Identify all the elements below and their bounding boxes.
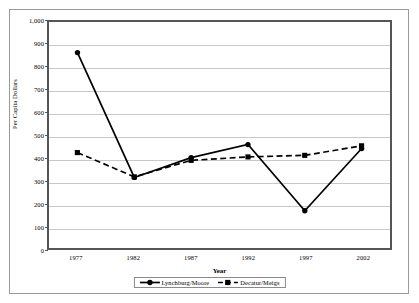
data-point-marker bbox=[359, 143, 364, 148]
data-point-marker bbox=[75, 150, 80, 155]
series-line-1 bbox=[77, 53, 361, 211]
y-axis-tick-label: 0 bbox=[10, 247, 44, 254]
data-point-marker bbox=[302, 153, 307, 158]
legend-label: Lynchburg/Moore bbox=[161, 279, 209, 286]
y-axis-tick-label: 1,000 bbox=[10, 17, 44, 24]
chart-figure: 01002003004005006007008009001,000 Per Ca… bbox=[0, 0, 419, 303]
legend-swatch-square bbox=[218, 279, 238, 286]
chart-legend: Lynchburg/MooreDecatur/Meigs bbox=[133, 277, 285, 288]
x-axis-tick-label: 1997 bbox=[286, 254, 326, 262]
data-point-marker bbox=[245, 154, 250, 159]
x-axis-tick-label: 1987 bbox=[171, 254, 211, 262]
series-canvas bbox=[49, 22, 390, 248]
x-axis-tick-label: 1992 bbox=[228, 254, 268, 262]
legend-entry-2: Decatur/Meigs bbox=[218, 279, 279, 286]
data-point-marker bbox=[245, 142, 250, 147]
legend-entry-1: Lynchburg/Moore bbox=[139, 279, 209, 286]
x-axis-tick-label: 2002 bbox=[343, 254, 383, 262]
y-axis-tick-label: 400 bbox=[10, 155, 44, 162]
data-point-marker bbox=[189, 158, 194, 163]
legend-label: Decatur/Meigs bbox=[240, 279, 279, 286]
y-axis-tick-label: 100 bbox=[10, 224, 44, 231]
y-axis-title: Per Capita Dollars bbox=[11, 59, 19, 149]
y-axis-tick-mark bbox=[45, 250, 48, 251]
x-axis-tick-label: 1977 bbox=[56, 254, 96, 262]
data-point-marker bbox=[75, 50, 80, 55]
data-point-marker bbox=[302, 208, 307, 213]
plot-area bbox=[47, 20, 392, 250]
legend-swatch-circle bbox=[139, 279, 159, 286]
y-axis-tick-label: 300 bbox=[10, 178, 44, 185]
y-axis-tick-label: 200 bbox=[10, 201, 44, 208]
x-axis-tick-label: 1982 bbox=[113, 254, 153, 262]
x-axis-title: Year bbox=[47, 266, 392, 275]
data-point-marker bbox=[132, 174, 137, 179]
y-axis-tick-label: 900 bbox=[10, 40, 44, 47]
